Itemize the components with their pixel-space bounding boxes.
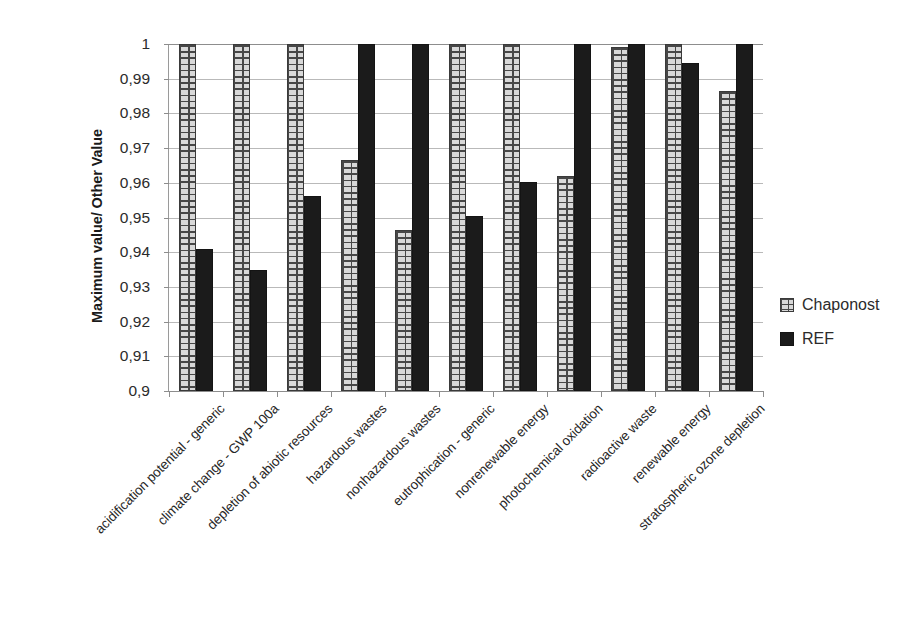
bar-chaponost[interactable] — [719, 91, 736, 391]
y-axis-tick-label: 0,93 — [120, 278, 150, 296]
bar-chaponost[interactable] — [287, 44, 304, 391]
x-axis-category-label: eutrophication - generic — [390, 401, 498, 509]
x-axis-category-label: hazardous wastes — [304, 401, 390, 487]
y-axis-tick-label: 0,94 — [120, 243, 150, 261]
y-axis-tick-label: 0,96 — [120, 174, 150, 192]
bar-chaponost[interactable] — [557, 176, 574, 391]
x-axis-baseline — [168, 391, 764, 392]
y-axis-tick-mark — [164, 183, 169, 184]
x-axis-category-label: acidification potential - generic — [92, 401, 228, 537]
y-axis-tick-label: 0,92 — [120, 313, 150, 331]
bar-ref[interactable] — [412, 44, 429, 391]
x-axis-category-label: photochemical oxidation — [495, 401, 606, 512]
plot-area — [168, 44, 763, 391]
x-axis-category-label: nonrenewable energy — [451, 401, 551, 501]
y-axis-tick-label: 0,9 — [128, 382, 150, 400]
bar-ref[interactable] — [466, 216, 483, 391]
legend-item-ref[interactable]: REF — [780, 322, 920, 356]
x-axis-category-label: radioactive waste — [577, 401, 660, 484]
y-axis-tick-label: 1 — [141, 35, 150, 53]
bar-ref[interactable] — [250, 270, 267, 391]
bar-ref[interactable] — [358, 44, 375, 391]
legend-item-chaponost[interactable]: Chaponost — [780, 288, 920, 322]
y-axis-tick-mark — [164, 218, 169, 219]
x-axis-category-label: depletion of abiotic resources — [204, 401, 336, 533]
y-axis-tick-label: 0,91 — [120, 347, 150, 365]
bar-ref[interactable] — [196, 249, 213, 391]
y-axis-tick-label: 0,98 — [120, 104, 150, 122]
x-axis-category-label: stratospheric ozone depletion — [635, 401, 767, 533]
y-axis-tick-label: 0,99 — [120, 70, 150, 88]
y-axis-tick-mark — [164, 322, 169, 323]
y-axis-tick-mark — [164, 113, 169, 114]
y-axis-tick-labels: 10,990,980,970,960,950,940,930,920,910,9 — [96, 44, 158, 391]
legend-swatch-ref-icon — [780, 332, 794, 346]
bar-ref[interactable] — [682, 63, 699, 391]
bar-ref[interactable] — [520, 182, 537, 391]
bar-chaponost[interactable] — [503, 44, 520, 391]
bar-chaponost[interactable] — [179, 44, 196, 391]
legend-label-ref: REF — [802, 330, 834, 348]
y-axis-tick-mark — [164, 79, 169, 80]
bar-chaponost[interactable] — [665, 44, 682, 391]
y-axis-tick-mark — [164, 252, 169, 253]
legend-label-chaponost: Chaponost — [802, 296, 879, 314]
bar-chaponost[interactable] — [341, 160, 358, 391]
bar-chaponost[interactable] — [611, 47, 628, 391]
legend-swatch-chaponost-icon — [780, 298, 794, 312]
bar-chaponost[interactable] — [233, 44, 250, 391]
bar-chaponost[interactable] — [449, 44, 466, 391]
bar-ref[interactable] — [574, 44, 591, 391]
bar-chaponost[interactable] — [395, 230, 412, 391]
y-axis-tick-mark — [164, 356, 169, 357]
y-axis-tick-mark — [164, 44, 169, 45]
x-axis-category-label: climate change - GWP 100a — [154, 401, 281, 528]
legend: Chaponost REF — [780, 288, 920, 356]
bar-chart: Maximum value/ Other Value 10,990,980,97… — [0, 0, 923, 628]
y-axis-tick-mark — [164, 148, 169, 149]
bar-ref[interactable] — [304, 196, 321, 391]
y-axis-tick-label: 0,95 — [120, 209, 150, 227]
bar-ref[interactable] — [628, 44, 645, 391]
x-axis-category-label: nonhazardous wastes — [342, 401, 443, 502]
bar-ref[interactable] — [736, 44, 753, 391]
x-axis-category-label: renewable energy — [629, 401, 714, 486]
y-axis-tick-label: 0,97 — [120, 139, 150, 157]
y-axis-tick-mark — [164, 287, 169, 288]
